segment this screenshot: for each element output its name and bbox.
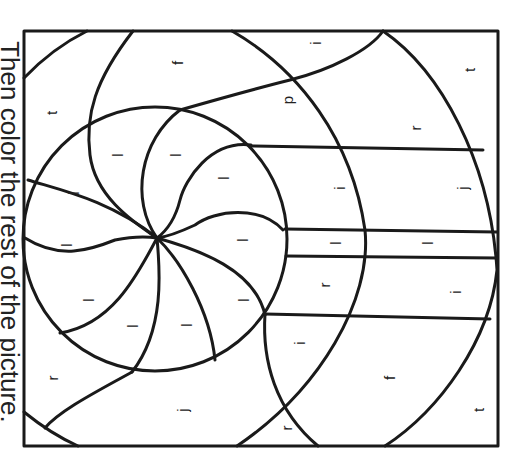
region-letter-label: t — [460, 60, 480, 80]
region-letter-label: f — [168, 53, 188, 73]
petal-curve-1 — [89, 31, 157, 238]
region-letter-label: r — [315, 275, 335, 295]
region-letter-label: l — [108, 145, 128, 165]
corner-arc-bottom-left — [24, 412, 78, 446]
region-letter-label: l — [214, 168, 234, 188]
band-line-3 — [286, 256, 497, 258]
region-letter-label: i — [290, 333, 310, 353]
region-letter-label: l — [233, 230, 253, 250]
region-letter-label: r — [277, 418, 297, 438]
petal-curve-6 — [28, 180, 157, 238]
region-letter-label: l — [234, 290, 254, 310]
region-letter-label: j — [453, 178, 473, 198]
corner-arc-top-left — [24, 31, 87, 78]
region-letter-label: i — [446, 282, 466, 302]
region-letter-label: r — [406, 118, 426, 138]
outer-arc — [383, 31, 497, 446]
region-letter-label: l — [123, 316, 143, 336]
region-letter-label: i — [306, 33, 326, 53]
region-letter-label: l — [177, 315, 197, 335]
region-letter-label: l — [79, 290, 99, 310]
region-letter-label: p — [278, 90, 298, 110]
region-letter-label: l — [326, 233, 346, 253]
region-letter-label: f — [380, 368, 400, 388]
band-line-2 — [285, 229, 497, 232]
band-line-4 — [265, 314, 490, 319]
region-letter-label: j — [173, 400, 193, 420]
region-letter-label: t — [42, 103, 62, 123]
region-letter-label: i — [330, 178, 350, 198]
petal-curve-5 — [25, 237, 157, 251]
region-letter-label: l — [64, 183, 84, 203]
coloring-picture — [0, 0, 515, 462]
region-letter-label: t — [469, 400, 489, 420]
region-letter-label: l — [166, 145, 186, 165]
region-letter-label: r — [43, 368, 63, 388]
region-letter-label: l — [418, 233, 438, 253]
band-line-1 — [250, 146, 483, 150]
region-letter-label: l — [57, 235, 77, 255]
